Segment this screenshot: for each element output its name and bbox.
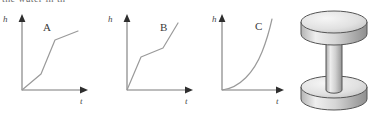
graph-c-curve xyxy=(222,19,272,90)
spool-top-disc xyxy=(301,11,367,45)
graph-b-vertical-axis xyxy=(124,14,131,90)
graph-a-ylabel: h xyxy=(3,14,8,24)
graph-c-xlabel: t xyxy=(276,96,279,106)
spool-illustration xyxy=(295,4,374,114)
figure-container: the water in th A h t xyxy=(0,0,374,116)
spool-svg xyxy=(295,4,374,114)
graph-b-xlabel: t xyxy=(185,96,188,106)
cropped-header-text-content: the water in th xyxy=(2,0,65,4)
graph-b-curve xyxy=(127,23,178,90)
graph-a-curve xyxy=(22,31,78,90)
graph-b-title: B xyxy=(160,21,168,33)
graph-c-vertical-axis xyxy=(219,14,226,90)
graph-a-title: A xyxy=(43,21,51,33)
graph-b-horizontal-axis xyxy=(127,87,193,94)
graph-b-svg xyxy=(115,8,225,112)
graph-c-title: C xyxy=(255,20,263,32)
graph-a-vertical-axis xyxy=(19,14,26,90)
graph-c-ylabel: h xyxy=(212,14,217,24)
graph-b-ylabel: h xyxy=(108,14,113,24)
graph-a-xlabel: t xyxy=(80,96,83,106)
graph-panel-b: B h t xyxy=(115,8,225,112)
graph-panel-a: A h t xyxy=(0,8,110,112)
graph-a-horizontal-axis xyxy=(22,87,88,94)
graph-a-svg xyxy=(0,8,110,112)
